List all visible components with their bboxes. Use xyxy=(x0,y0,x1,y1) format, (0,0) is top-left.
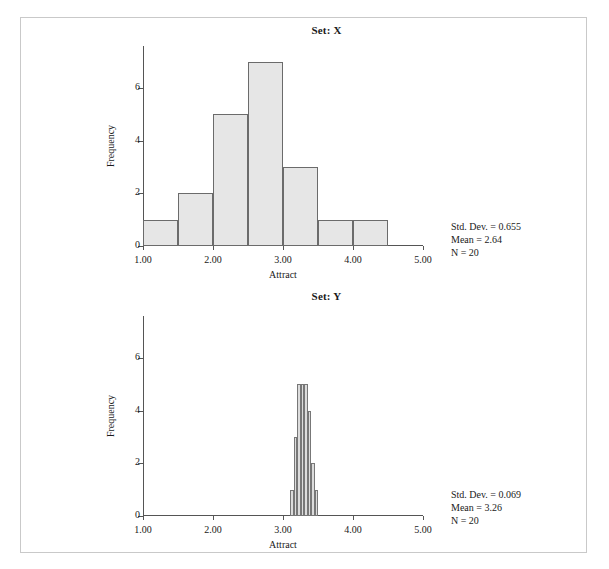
x-tick-label: 5.00 xyxy=(414,254,432,265)
chart-title-set-y: Set: Y xyxy=(21,290,588,302)
x-tick-mark xyxy=(423,516,424,520)
x-tick-mark xyxy=(353,246,354,250)
x-tick-label: 1.00 xyxy=(134,524,152,535)
stats-box-set-x: Std. Dev. = 0.655 Mean = 2.64 N = 20 xyxy=(451,220,521,259)
histogram-bar xyxy=(283,167,318,246)
x-tick-label: 2.00 xyxy=(204,254,222,265)
plot-area-set-x: 0246 1.002.003.004.005.00 Frequency Attr… xyxy=(143,46,423,246)
page-frame: Set: X 0246 1.002.003.004.005.00 Frequen… xyxy=(20,17,587,553)
x-tick-label: 4.00 xyxy=(344,254,362,265)
y-tick-label: 6 xyxy=(135,81,140,92)
chart-title-set-x: Set: X xyxy=(21,24,588,36)
std-dev-label-set-x: Std. Dev. = 0.655 xyxy=(451,220,521,233)
plot-area-set-y: 0246 1.002.003.004.005.00 Frequency Attr… xyxy=(143,316,423,516)
x-tick-mark xyxy=(143,516,144,520)
x-tick-mark xyxy=(423,246,424,250)
stats-box-set-y: Std. Dev. = 0.069 Mean = 3.26 N = 20 xyxy=(451,488,521,527)
x-tick-label: 1.00 xyxy=(134,254,152,265)
n-label-set-y: N = 20 xyxy=(451,514,521,527)
histogram-bar xyxy=(143,220,178,246)
x-tick-mark xyxy=(143,246,144,250)
y-axis-line-y xyxy=(143,316,144,516)
mean-label-set-x: Mean = 2.64 xyxy=(451,233,521,246)
n-label-set-x: N = 20 xyxy=(451,246,521,259)
histogram-bar xyxy=(353,220,388,246)
x-tick-mark xyxy=(283,516,284,520)
mean-label-set-y: Mean = 3.26 xyxy=(451,501,521,514)
x-tick-label: 3.00 xyxy=(274,524,292,535)
x-tick-mark xyxy=(283,246,284,250)
x-axis-title-set-x: Attract xyxy=(143,269,423,280)
x-tick-mark xyxy=(353,516,354,520)
y-tick-label: 2 xyxy=(135,456,140,467)
y-tick-label: 0 xyxy=(135,239,140,250)
x-axis-title-set-y: Attract xyxy=(143,539,423,550)
x-tick-mark xyxy=(213,246,214,250)
chart-set-y: Set: Y 0246 1.002.003.004.005.00 Frequen… xyxy=(21,290,588,548)
y-tick-label: 4 xyxy=(135,134,140,145)
x-tick-label: 3.00 xyxy=(274,254,292,265)
std-dev-label-set-y: Std. Dev. = 0.069 xyxy=(451,488,521,501)
histogram-bar xyxy=(315,490,319,516)
histogram-bar xyxy=(318,220,353,246)
histogram-bar xyxy=(213,114,248,246)
y-tick-label: 0 xyxy=(135,509,140,520)
histogram-bar xyxy=(178,193,213,246)
y-tick-label: 2 xyxy=(135,186,140,197)
x-tick-mark xyxy=(213,516,214,520)
chart-set-x: Set: X 0246 1.002.003.004.005.00 Frequen… xyxy=(21,24,588,286)
y-axis-title-set-x: Frequency xyxy=(105,125,116,167)
x-tick-label: 4.00 xyxy=(344,524,362,535)
y-axis-title-set-y: Frequency xyxy=(105,395,116,437)
x-tick-label: 5.00 xyxy=(414,524,432,535)
y-tick-label: 4 xyxy=(135,404,140,415)
y-tick-label: 6 xyxy=(135,351,140,362)
y-axis-line-x xyxy=(143,46,144,246)
x-tick-label: 2.00 xyxy=(204,524,222,535)
histogram-bar xyxy=(248,62,283,246)
